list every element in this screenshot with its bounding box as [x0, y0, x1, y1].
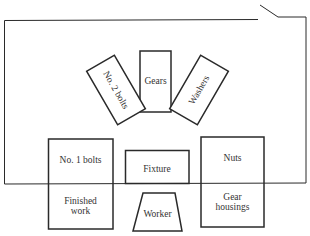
- bin-no1-bolts-label: No. 1 bolts: [60, 155, 102, 165]
- bin-finished-work-label-1: Finished: [64, 196, 97, 206]
- bin-nuts-gear-housings: Nuts Gear housings: [201, 137, 264, 227]
- bin-no2-bolts: No. 2 bolts: [87, 55, 146, 125]
- fixture-label: Fixture: [143, 164, 170, 174]
- fixture: Fixture: [126, 151, 190, 184]
- bin-nuts-label: Nuts: [224, 153, 242, 163]
- workstation-diagram: Gears No. 2 bolts Washers No. 1 bolts Fi…: [0, 0, 310, 236]
- bin-finished-work-label-2: work: [71, 206, 91, 216]
- bin-gear-housings-label-1: Gear: [223, 192, 242, 202]
- bin-gear-housings-label-2: housings: [216, 202, 250, 212]
- bin-washers: Washers: [170, 55, 229, 125]
- bin-gears: Gears: [140, 51, 171, 112]
- bin-gears-label: Gears: [144, 76, 166, 86]
- worker-label: Worker: [143, 209, 172, 219]
- worker: Worker: [133, 193, 182, 231]
